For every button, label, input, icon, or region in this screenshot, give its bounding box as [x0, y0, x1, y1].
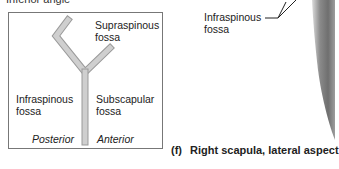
figure-caption: (f)Right scapula, lateral aspect [171, 144, 339, 156]
subscapular-label: Subscapular fossa [96, 93, 154, 117]
scapula-photo [312, 0, 335, 140]
anterior-label: Anterior [97, 133, 134, 145]
caption-text: Right scapula, lateral aspect [190, 144, 339, 156]
posterior-label: Posterior [32, 133, 74, 145]
caption-letter: (f) [171, 144, 182, 156]
infraspinous-label: Infraspinous fossa [16, 93, 73, 117]
supraspinous-label: Supraspinous fossa [95, 19, 159, 43]
photo-infraspinous-label: Infraspinous fossa [204, 11, 261, 35]
leader-lines [265, 0, 296, 18]
